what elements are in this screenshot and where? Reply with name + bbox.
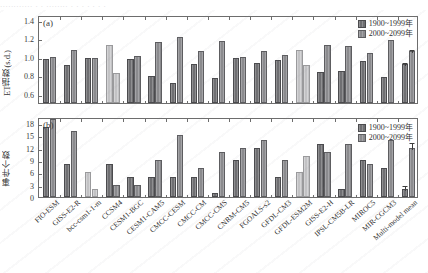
y-tick-mark [39, 40, 42, 41]
y-tick-mark [39, 96, 42, 97]
legend-label-historical: 1900~1999年 [369, 19, 413, 29]
bar [233, 58, 239, 103]
x-tick-mark [356, 101, 357, 104]
bar [254, 63, 260, 103]
y-tick-label: 0.8 [10, 72, 34, 81]
bar [50, 57, 56, 103]
panel-a-plot-area: (a) 1900~1999年 2000~2099年 [38, 16, 418, 104]
panel-a: ET指数(s.d.) 0.60.81.01.21.4 (a) 1900~1999… [0, 10, 428, 110]
bar [381, 77, 387, 103]
bar [254, 148, 260, 197]
legend-row-historical: 1900~1999年 [358, 123, 413, 133]
error-bar-cap [409, 50, 414, 51]
y-tick-label: 1.0 [10, 53, 34, 62]
y-tick-mark [39, 125, 42, 126]
y-tick-mark [39, 187, 42, 188]
bar [303, 156, 309, 197]
bar [324, 152, 330, 197]
bar [219, 41, 225, 103]
bar [212, 193, 218, 197]
bar [388, 40, 394, 103]
x-tick-mark [208, 17, 209, 20]
error-bar-cap [409, 143, 414, 144]
bar [240, 148, 246, 197]
x-tick-mark [313, 101, 314, 104]
bar [191, 177, 197, 198]
bar [92, 189, 98, 197]
y-tick-label: 6 [10, 169, 34, 178]
x-tick-mark [208, 101, 209, 104]
x-axis-labels: FIO-ESMGISS-E2-Rbcc-csm1-1-mCCSM4CESM1-B… [38, 198, 418, 273]
legend-row-historical: 1900~1999年 [358, 19, 413, 29]
bar [155, 160, 161, 197]
bar [191, 64, 197, 103]
y-tick-mark [39, 22, 42, 23]
figure-container: ET指数(s.d.) 0.60.81.01.21.4 (a) 1900~1999… [0, 10, 428, 273]
x-tick-mark [187, 101, 188, 104]
x-tick-mark [102, 119, 103, 122]
x-tick-mark [102, 101, 103, 104]
x-tick-mark [145, 119, 146, 122]
bar [134, 185, 140, 197]
bar [177, 37, 183, 103]
y-tick-mark [39, 162, 42, 163]
x-tick-mark [250, 119, 251, 122]
x-tick-mark [81, 101, 82, 104]
bar [134, 56, 140, 103]
x-tick-mark [250, 101, 251, 104]
x-tick-mark [166, 17, 167, 20]
legend-label-historical: 1900~1999年 [369, 123, 413, 133]
x-tick-mark [271, 17, 272, 20]
bar [212, 78, 218, 103]
bar [170, 177, 176, 198]
y-tick-mark [39, 137, 42, 138]
x-tick-mark [123, 17, 124, 20]
bar [275, 60, 281, 103]
bar [367, 53, 373, 103]
bar [219, 152, 225, 197]
y-tick-label: 18 [10, 120, 34, 129]
x-tick-mark [398, 101, 399, 104]
legend-label-future: 2000~2099年 [369, 29, 413, 39]
x-tick-mark [166, 119, 167, 122]
bar [282, 55, 288, 103]
legend-swatch-future-icon [358, 134, 366, 142]
x-tick-mark [187, 119, 188, 122]
bar [85, 58, 91, 103]
bar [317, 72, 323, 103]
bar [409, 51, 415, 103]
bar [360, 61, 366, 103]
bar [106, 164, 112, 197]
y-tick-label: 15 [10, 132, 34, 141]
y-tick-label: 9 [10, 157, 34, 166]
bar [275, 177, 281, 198]
bar [127, 59, 133, 103]
x-tick-mark [229, 101, 230, 104]
y-tick-mark [39, 150, 42, 151]
panel-b-legend: 1900~1999年 2000~2099年 [358, 123, 413, 143]
cropped-header-text: ............ . . ........ . . . . . . . [0, 0, 428, 10]
error-bar-cap [402, 186, 407, 187]
panel-b-tag: (b) [43, 120, 54, 130]
bar [402, 64, 408, 103]
x-tick-mark [292, 101, 293, 104]
panel-b: 事件个数 0369121518 (b) 1900~1999年 2000~2099… [0, 114, 428, 206]
bar [240, 57, 246, 103]
x-tick-mark [60, 17, 61, 20]
x-tick-mark [335, 101, 336, 104]
x-tick-mark [123, 119, 124, 122]
bar [261, 140, 267, 197]
bar [324, 45, 330, 103]
x-tick-mark [60, 119, 61, 122]
bar [388, 140, 394, 197]
x-tick-mark [356, 119, 357, 122]
bar [345, 46, 351, 103]
x-tick-mark [271, 119, 272, 122]
bar [106, 45, 112, 103]
bar [71, 131, 77, 197]
bar [43, 59, 49, 103]
bar [92, 58, 98, 103]
x-tick-mark [377, 101, 378, 104]
bar [317, 144, 323, 197]
bar [155, 42, 161, 103]
